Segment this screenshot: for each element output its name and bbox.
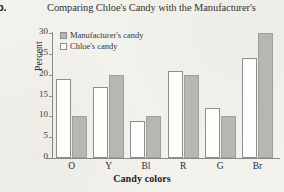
bar-Y-manufacturer xyxy=(109,75,124,158)
bar-Y-chloe xyxy=(93,87,108,158)
legend-swatch-icon xyxy=(60,43,67,50)
bar-group-G xyxy=(202,33,239,158)
x-tick-label-R: R xyxy=(168,161,198,171)
bar-group-Br xyxy=(239,33,276,158)
bar-R-manufacturer xyxy=(184,75,199,158)
y-tick-mark xyxy=(49,158,53,159)
bar-Br-chloe xyxy=(242,58,257,158)
bar-O-manufacturer xyxy=(72,116,87,158)
bar-Br-manufacturer xyxy=(258,33,273,158)
legend-item: Chloe's candy xyxy=(60,41,144,51)
figure: b. Comparing Chloe's Candy with the Manu… xyxy=(0,0,284,192)
chart-title: Comparing Chloe's Candy with the Manufac… xyxy=(47,2,284,13)
x-tick-label-G: G xyxy=(205,161,235,171)
bar-O-chloe xyxy=(56,79,71,158)
legend-swatch-icon xyxy=(60,32,67,39)
y-tick-label: 10 xyxy=(31,109,48,119)
legend-item: Manufacturer's candy xyxy=(60,30,144,40)
x-tick-label-Y: Y xyxy=(94,161,124,171)
y-tick-label: 15 xyxy=(31,89,48,99)
bar-group-R xyxy=(165,33,202,158)
x-tick-label-Bl: Bl xyxy=(131,161,161,171)
bar-G-manufacturer xyxy=(221,116,236,158)
bar-G-chloe xyxy=(205,108,220,158)
x-axis-label: Candy colors xyxy=(0,173,284,184)
y-tick-label: 0 xyxy=(31,151,48,161)
bar-R-chloe xyxy=(168,71,183,159)
legend-label: Chloe's candy xyxy=(70,41,118,51)
y-tick-label: 30 xyxy=(31,26,48,36)
bar-Bl-manufacturer xyxy=(146,116,161,158)
y-axis-label: Percent xyxy=(34,41,44,71)
x-axis-line xyxy=(46,158,280,159)
legend: Manufacturer's candyChloe's candy xyxy=(60,30,144,52)
x-tick-label-O: O xyxy=(57,161,87,171)
y-tick-label: 5 xyxy=(31,130,48,140)
part-label: b. xyxy=(0,1,6,13)
bar-Bl-chloe xyxy=(130,121,145,159)
legend-label: Manufacturer's candy xyxy=(70,30,144,40)
x-tick-label-Br: Br xyxy=(242,161,272,171)
